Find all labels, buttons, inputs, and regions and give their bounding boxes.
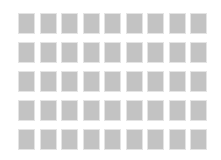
grid-tile[interactable] — [19, 43, 34, 62]
grid-tile[interactable] — [170, 130, 185, 149]
grid-tile[interactable] — [127, 14, 142, 33]
grid-tile[interactable] — [62, 14, 77, 33]
grid-tile[interactable] — [41, 101, 56, 120]
grid-tile[interactable] — [62, 101, 77, 120]
grid-tile[interactable] — [105, 101, 120, 120]
grid-tile[interactable] — [170, 72, 185, 91]
grid-tile[interactable] — [105, 130, 120, 149]
grid-tile[interactable] — [105, 43, 120, 62]
tile-grid — [19, 14, 206, 149]
grid-tile[interactable] — [84, 43, 99, 62]
grid-tile[interactable] — [148, 14, 163, 33]
grid-tile[interactable] — [84, 130, 99, 149]
grid-tile[interactable] — [148, 43, 163, 62]
grid-tile[interactable] — [191, 43, 206, 62]
grid-tile[interactable] — [170, 14, 185, 33]
grid-tile[interactable] — [127, 130, 142, 149]
grid-tile[interactable] — [127, 101, 142, 120]
grid-tile[interactable] — [170, 43, 185, 62]
grid-tile[interactable] — [148, 101, 163, 120]
grid-tile[interactable] — [191, 72, 206, 91]
grid-tile[interactable] — [62, 130, 77, 149]
grid-tile[interactable] — [191, 101, 206, 120]
grid-tile[interactable] — [191, 14, 206, 33]
grid-tile[interactable] — [41, 14, 56, 33]
grid-tile[interactable] — [191, 130, 206, 149]
grid-tile[interactable] — [148, 72, 163, 91]
grid-tile[interactable] — [170, 101, 185, 120]
grid-tile[interactable] — [19, 14, 34, 33]
grid-tile[interactable] — [19, 130, 34, 149]
grid-tile[interactable] — [84, 14, 99, 33]
grid-tile[interactable] — [127, 43, 142, 62]
grid-tile[interactable] — [84, 72, 99, 91]
grid-tile[interactable] — [127, 72, 142, 91]
grid-tile[interactable] — [41, 43, 56, 62]
grid-tile[interactable] — [19, 101, 34, 120]
grid-tile[interactable] — [105, 14, 120, 33]
grid-tile[interactable] — [41, 130, 56, 149]
grid-tile[interactable] — [148, 130, 163, 149]
grid-tile[interactable] — [84, 101, 99, 120]
grid-tile[interactable] — [19, 72, 34, 91]
grid-tile[interactable] — [62, 72, 77, 91]
grid-tile[interactable] — [105, 72, 120, 91]
grid-tile[interactable] — [62, 43, 77, 62]
grid-tile[interactable] — [41, 72, 56, 91]
